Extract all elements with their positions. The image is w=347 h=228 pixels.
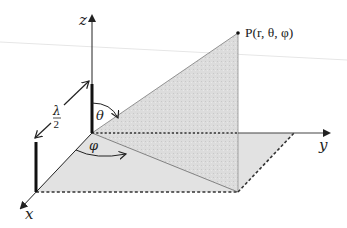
length-arrow-lower [35,123,51,138]
y-axis-label: y [318,136,328,154]
scan-line [0,42,347,60]
length-arrow-upper [64,81,89,105]
point-p-marker [236,31,240,35]
length-numerator: λ [52,104,61,118]
length-label: λ 2 [52,104,61,130]
length-denominator: 2 [54,118,60,130]
z-axis-label: z [78,11,87,29]
point-label: P(r, θ, φ) [245,25,293,40]
phi-label: φ [89,138,99,153]
x-axis-label: x [25,205,34,223]
theta-label: θ [96,108,104,123]
dipole-diagram: z y x P(r, θ, φ) θ φ λ 2 [0,0,347,228]
